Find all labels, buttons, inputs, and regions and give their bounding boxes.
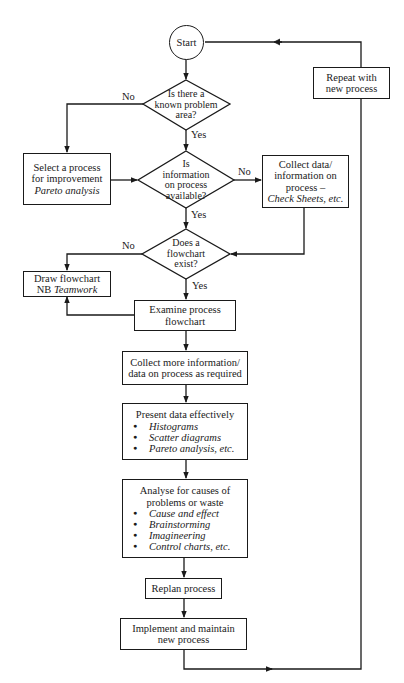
- start-label: Start: [177, 37, 197, 48]
- examine-process-flowchart-box: Examine process flowchart: [134, 300, 236, 331]
- implement-maintain-box: Implement and maintain new process: [120, 618, 247, 650]
- start-terminal: Start: [169, 25, 204, 60]
- replan-label: Replan process: [152, 583, 216, 595]
- collect-more-information-box: Collect more information/ data on proces…: [122, 351, 248, 385]
- present-bullet-scatter: Scatter diagrams: [127, 432, 234, 443]
- flowchart-canvas: Start Repeat with new process Is there a…: [0, 0, 404, 683]
- decision-2-line-4: available?: [166, 191, 207, 202]
- draw-flowchart-note: Teamwork: [54, 284, 97, 295]
- present-data-box: Present data effectively Histograms Scat…: [122, 403, 248, 460]
- repeat-line-1: Repeat with: [326, 72, 376, 84]
- collect-data-line-3: process –: [286, 182, 325, 194]
- present-bullet-histograms: Histograms: [127, 421, 234, 432]
- repeat-with-new-process-box: Repeat with new process: [313, 67, 390, 99]
- decision-flowchart-exists-text: Does a flowchart exist?: [150, 236, 222, 272]
- edge-label-yes-2: Yes: [191, 209, 206, 220]
- implement-line-1: Implement and maintain: [132, 623, 235, 635]
- decision-2-line-3: on process: [165, 180, 208, 191]
- edge-label-yes-1: Yes: [191, 129, 206, 140]
- present-bullet-pareto: Pareto analysis, etc.: [127, 443, 234, 454]
- analyse-bullet-list: Cause and effect Brainstorming Imagineer…: [127, 508, 230, 552]
- present-title: Present data effectively: [136, 409, 234, 421]
- edge-label-no-1: No: [122, 91, 135, 102]
- select-process-box: Select a process for improvement Pareto …: [23, 153, 111, 205]
- draw-flowchart-line-1: Draw flowchart: [34, 273, 100, 285]
- draw-flowchart-line-2: NB Teamwork: [37, 284, 98, 296]
- examine-line-2: flowchart: [165, 316, 205, 328]
- collect-data-technique: Check Sheets, etc.: [268, 193, 344, 205]
- select-line-2: for improvement: [32, 173, 103, 185]
- repeat-line-2: new process: [326, 83, 378, 95]
- analyse-bullet-control-charts: Control charts, etc.: [127, 541, 230, 552]
- decision-2-line-1: Is: [182, 159, 189, 170]
- edge-label-no-2: No: [238, 166, 251, 177]
- select-technique: Pareto analysis: [34, 185, 99, 197]
- decision-info-available-text: Is information on process available?: [146, 156, 226, 204]
- analyse-title-line-1: Analyse for causes of: [140, 485, 231, 497]
- analyse-bullet-cause-effect: Cause and effect: [127, 508, 230, 519]
- edge-label-yes-3: Yes: [192, 280, 207, 291]
- collect-more-line-1: Collect more information/: [130, 357, 240, 369]
- collect-data-box: Collect data/ information on process – C…: [262, 155, 349, 208]
- edge-label-no-3: No: [122, 240, 135, 251]
- collect-more-line-2: data on process as required: [128, 368, 242, 380]
- analyse-causes-box: Analyse for causes of problems or waste …: [122, 479, 248, 558]
- draw-flowchart-prefix: NB: [37, 284, 54, 295]
- decision-problem-area-text: Is there a known problem area?: [146, 86, 226, 124]
- decision-1-line-3: area?: [175, 110, 196, 121]
- collect-data-line-2: information on: [274, 170, 337, 182]
- replan-process-box: Replan process: [145, 578, 222, 599]
- analyse-bullet-brainstorming: Brainstorming: [127, 519, 230, 530]
- collect-data-line-1: Collect data/: [279, 159, 332, 171]
- examine-line-1: Examine process: [149, 304, 220, 316]
- decision-3-line-3: exist?: [174, 259, 197, 270]
- analyse-title-line-2: problems or waste: [147, 497, 224, 509]
- present-bullet-list: Histograms Scatter diagrams Pareto analy…: [127, 421, 234, 454]
- analyse-bullet-imagineering: Imagineering: [127, 530, 230, 541]
- select-line-1: Select a process: [33, 162, 100, 174]
- draw-flowchart-box: Draw flowchart NB Teamwork: [23, 271, 111, 297]
- implement-line-2: new process: [158, 634, 210, 646]
